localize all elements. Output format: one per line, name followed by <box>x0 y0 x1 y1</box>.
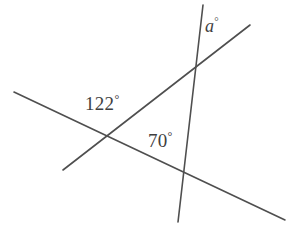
geometry-figure: 122° 70° a° <box>0 0 297 236</box>
shallow-descending-line <box>14 92 285 220</box>
angle-label-70-value: 70 <box>148 130 168 151</box>
angle-label-a: a° <box>205 16 219 35</box>
angle-label-122: 122° <box>85 93 120 113</box>
angle-label-70: 70° <box>148 130 173 150</box>
angle-label-a-value: a <box>205 16 214 36</box>
geometry-canvas <box>0 0 297 236</box>
angle-label-122-value: 122 <box>85 93 114 114</box>
degree-symbol-icon: ° <box>168 129 173 143</box>
degree-symbol-icon: ° <box>214 15 219 27</box>
steep-vertical-line <box>178 5 203 222</box>
degree-symbol-icon: ° <box>114 92 119 106</box>
